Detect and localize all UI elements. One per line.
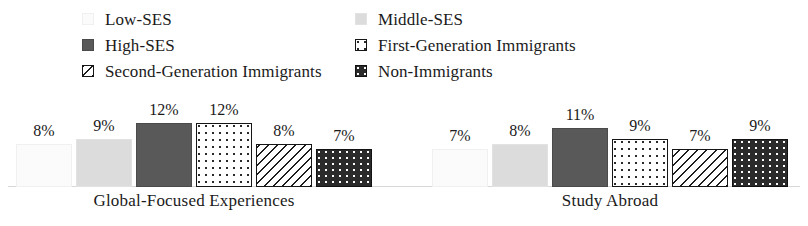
bar-group-global-focused-experiences: 8%9%12%12%8%7% Global-Focused Experience… [14, 112, 374, 226]
bar[interactable] [492, 144, 548, 187]
bar[interactable] [316, 149, 372, 187]
legend-item[interactable]: Second-Generation Immigrants [82, 58, 322, 84]
legend-item-label: First-Generation Immigrants [378, 37, 576, 54]
bar-value-label: 9% [732, 118, 788, 134]
bar[interactable] [136, 123, 192, 187]
legend-item-label: Middle-SES [378, 11, 463, 28]
legend-column-1: Low-SESHigh-SESSecond-Generation Immigra… [82, 6, 322, 84]
bar-slot: 9% [76, 112, 132, 187]
bar-slot: 8% [16, 112, 72, 187]
bar[interactable] [552, 128, 608, 187]
bar-slot: 7% [432, 112, 488, 187]
bar-slot: 12% [136, 112, 192, 187]
bar-value-label: 7% [672, 128, 728, 144]
bar-value-label: 12% [196, 102, 252, 118]
legend-item-label: High-SES [105, 37, 175, 54]
legend-item[interactable]: Middle-SES [355, 6, 576, 32]
bar-group-bars: 8%9%12%12%8%7% [14, 112, 374, 187]
bar[interactable] [16, 144, 72, 187]
bar-slot: 11% [552, 112, 608, 187]
bar-value-label: 9% [76, 118, 132, 134]
high-ses-swatch [82, 39, 94, 51]
bar-slot: 7% [672, 112, 728, 187]
bar[interactable] [256, 144, 312, 187]
legend-item[interactable]: High-SES [82, 32, 322, 58]
bar-value-label: 7% [316, 128, 372, 144]
bar-value-label: 8% [16, 123, 72, 139]
legend-item-label: Low-SES [105, 11, 172, 28]
bar-slot: 8% [492, 112, 548, 187]
legend-item-label: Second-Generation Immigrants [105, 63, 322, 80]
bar[interactable] [76, 139, 132, 187]
bar[interactable] [672, 149, 728, 187]
bar-value-label: 12% [136, 102, 192, 118]
bar-slot: 12% [196, 112, 252, 187]
second-generation-immigrants-swatch [82, 65, 94, 77]
bar-group-study-abroad: 7%8%11%9%7%9% Study Abroad [430, 112, 790, 226]
bar-slot: 9% [732, 112, 788, 187]
legend-item[interactable]: Non-Immigrants [355, 58, 576, 84]
bar-slot: 9% [612, 112, 668, 187]
bar-value-label: 8% [492, 123, 548, 139]
bar-slot: 7% [316, 112, 372, 187]
bar-value-label: 7% [432, 128, 488, 144]
bar[interactable] [612, 139, 668, 187]
middle-ses-swatch [355, 13, 367, 25]
bar-value-label: 8% [256, 123, 312, 139]
plot-area: 8%9%12%12%8%7% Global-Focused Experience… [0, 112, 808, 226]
low-ses-swatch [82, 13, 94, 25]
legend-item[interactable]: First-Generation Immigrants [355, 32, 576, 58]
bar-group-bars: 7%8%11%9%7%9% [430, 112, 790, 187]
first-generation-immigrants-swatch [355, 39, 367, 51]
legend-column-2: Middle-SESFirst-Generation ImmigrantsNon… [355, 6, 576, 84]
bar-group-label: Global-Focused Experiences [14, 192, 374, 210]
bar-value-label: 11% [552, 107, 608, 123]
bar[interactable] [432, 149, 488, 187]
chart-legend: Low-SESHigh-SESSecond-Generation Immigra… [0, 6, 808, 84]
bar-group-label: Study Abroad [430, 192, 790, 210]
bar[interactable] [196, 123, 252, 187]
legend-item[interactable]: Low-SES [82, 6, 322, 32]
non-immigrants-swatch [355, 65, 367, 77]
legend-item-label: Non-Immigrants [378, 63, 493, 80]
bar[interactable] [732, 139, 788, 187]
bar-slot: 8% [256, 112, 312, 187]
bar-value-label: 9% [612, 118, 668, 134]
